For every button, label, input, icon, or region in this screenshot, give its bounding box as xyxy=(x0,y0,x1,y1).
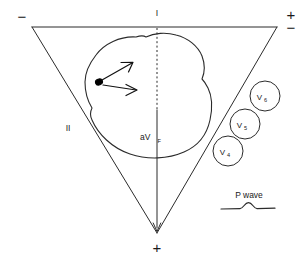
vector-arrow-upper xyxy=(102,62,133,80)
einthoven-triangle-diagram: V 6 V 5 V 4 I II aV F xyxy=(0,0,306,262)
precordial-lead-v6[interactable]: V 6 xyxy=(250,81,280,111)
polarity-minus-top-left: − xyxy=(18,8,27,25)
depolarization-origin-dot xyxy=(95,78,104,86)
precordial-lead-v4-label: V xyxy=(220,148,226,157)
p-wave-label: P wave xyxy=(235,190,263,200)
polarity-plus-bottom-apex: + xyxy=(153,239,162,256)
vector-arrow-upper-shaft xyxy=(102,63,132,80)
lead-i-label: I xyxy=(156,8,158,18)
vector-arrow-lower xyxy=(103,85,137,96)
avf-axis xyxy=(153,28,161,232)
precordial-lead-v4[interactable]: V 4 xyxy=(213,136,243,166)
precordial-lead-v4-subscript: 4 xyxy=(227,152,230,158)
precordial-lead-v5[interactable]: V 5 xyxy=(230,109,260,139)
polarity-minus-top-right: − xyxy=(287,19,296,36)
precordial-lead-v6-label: V xyxy=(257,93,263,102)
precordial-lead-v6-subscript: 6 xyxy=(264,97,267,103)
avf-label: aV xyxy=(140,132,151,142)
avf-label-subscript: F xyxy=(158,138,162,144)
p-wave-legend: P wave xyxy=(221,190,275,209)
figure-root: V 6 V 5 V 4 I II aV F xyxy=(0,0,306,262)
precordial-lead-circles: V 6 V 5 V 4 xyxy=(213,81,280,166)
lead-labels: I II aV F xyxy=(66,8,162,144)
lead-ii-label: II xyxy=(66,123,71,133)
precordial-lead-v5-label: V xyxy=(237,121,243,130)
precordial-lead-v5-subscript: 5 xyxy=(244,125,247,131)
p-wave-tracing xyxy=(221,203,275,209)
